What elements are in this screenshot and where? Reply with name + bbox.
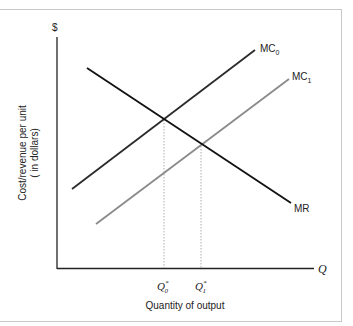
y-axis-label: Cost/revenue per unit bbox=[17, 105, 28, 201]
mc1-label: MC1 bbox=[292, 71, 312, 84]
marginal-cost-revenue-diagram: $ Q Cost/revenue per unit ( in dollars) … bbox=[0, 0, 353, 326]
x-axis-symbol: Q bbox=[318, 262, 327, 276]
mc1-curve bbox=[96, 79, 289, 224]
x-axis-label: Quantity of output bbox=[146, 300, 225, 311]
mr-label: MR bbox=[294, 203, 310, 214]
q0-star-label: Q*0 bbox=[157, 279, 169, 295]
mc0-label: MC0 bbox=[260, 43, 280, 56]
y-axis-label-units: ( in dollars) bbox=[29, 128, 40, 177]
y-axis-symbol: $ bbox=[52, 22, 58, 33]
mr-curve bbox=[87, 68, 291, 203]
q1-star-label: Q*1 bbox=[195, 279, 207, 295]
